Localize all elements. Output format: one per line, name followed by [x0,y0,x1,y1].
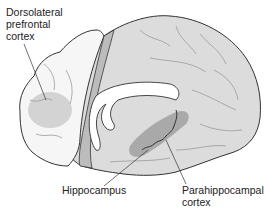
label-dorsolateral-prefrontal-cortex: Dorsolateral prefrontal cortex [6,6,63,42]
label-parahippocampal-cortex: Parahippocampal cortex [182,184,264,208]
label-hippocampus: Hippocampus [62,184,126,196]
dlpfc-region [28,92,72,128]
